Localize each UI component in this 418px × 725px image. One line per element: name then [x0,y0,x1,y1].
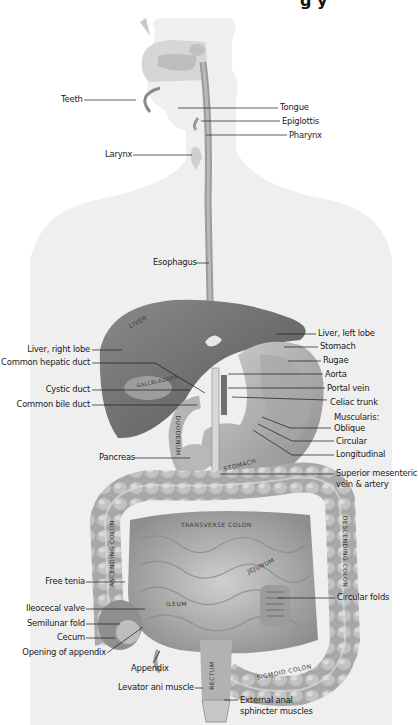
label-rugae: Rugae [323,356,348,366]
label-liver-right-lobe: Liver, right lobe [27,345,90,355]
label-superior-mesenteric-line2: vein & artery [336,480,388,490]
label-superior-mesenteric: Superior mesenteric [336,469,417,479]
label-esophagus: Esophagus [153,258,197,268]
label-longitudinal: Longitudinal [336,450,385,460]
label-external-anal-line2: sphincter muscles [240,707,313,717]
label-common-bile-duct: Common bile duct [17,400,90,410]
label-pharynx: Pharynx [289,131,322,141]
label-larynx: Larynx [105,150,132,160]
label-muscularis: Muscularis: [334,413,379,423]
label-epiglottis: Epiglottis [282,117,319,127]
label-stomach: Stomach [320,342,356,352]
label-liver-left-lobe: Liver, left lobe [318,329,375,339]
label-ileocecal-valve: Ileocecal valve [26,604,85,614]
rectum [200,640,232,722]
label-aorta: Aorta [325,370,347,380]
organ-label-rectum: Rectum [208,661,215,689]
label-circular-folds: Circular folds [337,593,389,603]
label-celiac-trunk: Celiac trunk [330,398,378,408]
label-cecum: Cecum [57,633,85,643]
organ-label-duodenum: Duodenum [175,415,182,455]
label-pancreas: Pancreas [99,453,135,463]
label-tongue: Tongue [280,103,309,113]
organ-label-descending-colon: Descending colon [342,516,349,587]
label-portal-vein: Portal vein [327,384,369,394]
label-external-anal: External anal [240,696,293,706]
label-teeth: Teeth [61,95,83,105]
label-common-hepatic-duct: Common hepatic duct [1,358,90,368]
label-semilunar-fold: Semilunar fold [27,619,85,629]
label-cystic-duct: Cystic duct [46,385,90,395]
label-oblique: Oblique [334,424,365,434]
label-opening-of-appendix: Opening of appendix [22,648,106,658]
label-circular: Circular [336,437,367,447]
aorta-vessel [212,368,219,478]
digestive-system-diagram: g y [0,0,418,725]
organ-label-transverse-colon: Transverse colon [181,521,252,528]
label-levator-ani-muscle: Levator ani muscle [118,683,194,693]
label-free-tenia: Free tenia [45,577,85,587]
small-intestine [128,511,318,653]
label-appendix: Appendix [131,664,169,674]
organ-label-ileum: Ileum [166,600,187,607]
organ-label-ascending-colon: Ascending colon [108,520,115,587]
